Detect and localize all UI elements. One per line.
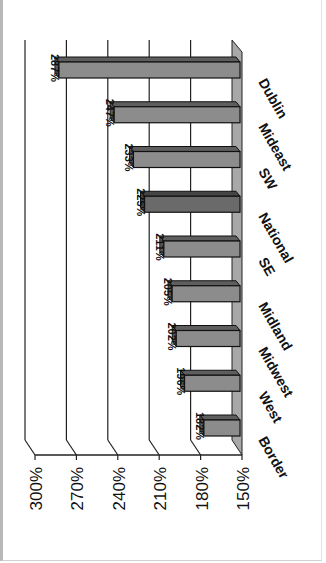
gridline-depth <box>149 440 159 455</box>
axis-tick-label: 300% <box>27 467 46 510</box>
bar-value-label: 202% <box>166 322 178 350</box>
bar-value-label: 211% <box>154 233 166 261</box>
bar-value-label: 247% <box>104 99 116 127</box>
axis-tick-label: 240% <box>110 467 129 510</box>
bar-se: 211%SE <box>154 233 279 278</box>
gridline-depth <box>108 440 118 455</box>
bar-value-label: 182% <box>194 412 206 440</box>
bar-sw: 233%SW <box>123 143 280 193</box>
category-label: Midwest <box>255 344 297 400</box>
gridline-depth <box>191 440 201 455</box>
bar-chart: 150%180%210%240%270%300%182%Border196%We… <box>0 0 326 563</box>
gridline-depth <box>25 440 35 455</box>
axis-tick-label: 210% <box>151 467 170 510</box>
bar-value-label: 233% <box>123 143 135 171</box>
bar-value-label: 287% <box>49 54 61 82</box>
category-label: National <box>255 210 296 266</box>
axis-tick-label: 180% <box>193 467 212 510</box>
category-label: Border <box>255 434 292 482</box>
axis-tick-label: 150% <box>234 467 253 510</box>
gridline-depth <box>66 440 76 455</box>
category-label: Dublin <box>255 76 291 122</box>
axis-tick-label: 270% <box>68 467 87 510</box>
category-label: Mideast <box>255 120 295 173</box>
category-label: SE <box>255 255 278 279</box>
category-label: SW <box>255 165 281 193</box>
bar-value-label: 196% <box>175 367 187 395</box>
bar-value-label: 225% <box>135 188 147 216</box>
bar-value-label: 205% <box>162 278 174 306</box>
category-label: Midland <box>255 299 295 353</box>
